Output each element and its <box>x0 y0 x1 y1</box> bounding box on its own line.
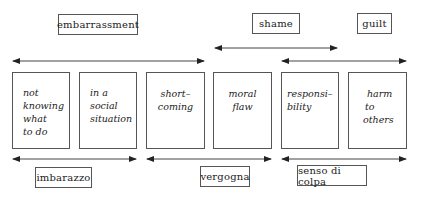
label-shame: shame <box>252 13 300 34</box>
box-line: to <box>349 100 406 113</box>
concept-box-moral-flaw: moral flaw <box>213 72 272 149</box>
concept-box-social-situation: in a social situation <box>79 72 137 149</box>
concept-box-not-knowing: not knowing what to do <box>12 72 70 149</box>
box-line: responsi– <box>282 87 338 100</box>
box-line: to do <box>13 125 69 138</box>
box-line: others <box>349 113 406 126</box>
box-line: knowing <box>13 99 69 112</box>
box-line: short– <box>147 87 204 100</box>
label-imbarazzo: imbarazzo <box>35 167 92 188</box>
box-line: harm <box>349 87 406 100</box>
label-embarrassment: embarrassment <box>58 14 138 35</box>
label-senso-di-colpa: senso di colpa <box>297 165 367 186</box>
concept-box-responsibility: responsi– bility <box>281 72 339 149</box>
concept-box-shortcoming: short– coming <box>146 72 205 149</box>
box-line: situation <box>80 112 136 125</box>
box-line: not <box>13 86 69 99</box>
box-line: what <box>13 112 69 125</box>
label-vergogna: vergogna <box>200 166 250 187</box>
box-line: moral <box>214 87 271 100</box>
box-line: coming <box>147 100 204 113</box>
box-line: bility <box>282 100 338 113</box>
label-guilt: guilt <box>357 13 392 34</box>
box-line: flaw <box>214 100 271 113</box>
box-line: in a <box>80 86 136 99</box>
concept-box-harm-to-others: harm to others <box>348 72 407 149</box>
box-line: social <box>80 99 136 112</box>
